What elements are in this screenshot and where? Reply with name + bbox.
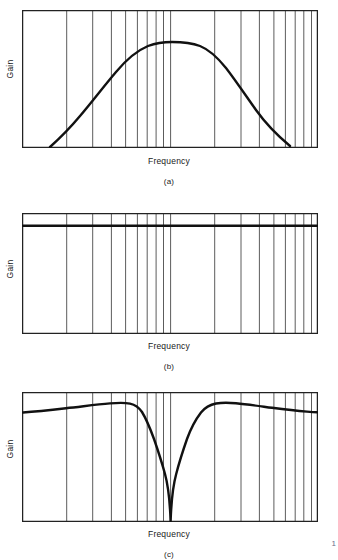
panel-a-y-axis-label: Gain xyxy=(5,59,15,79)
panel-a-gridlines xyxy=(67,10,312,148)
panel-c-x-axis-label: Frequency xyxy=(0,529,338,539)
panel-a-plot-area xyxy=(22,10,318,148)
panel-a-response-curve xyxy=(50,42,290,147)
panel-b-plot-area xyxy=(22,213,318,334)
panel-b-gridlines xyxy=(67,213,312,334)
panel-c-gridlines xyxy=(67,392,312,522)
page-corner-mark: 1 xyxy=(332,539,336,548)
panel-a-caption: (a) xyxy=(0,177,338,186)
panel-b-flat: Gain xyxy=(0,190,338,372)
panel-c-plot-svg xyxy=(22,392,318,522)
panel-b-plot-svg xyxy=(22,213,318,334)
panel-a-plot-svg xyxy=(22,10,318,148)
panel-c-y-axis-label: Gain xyxy=(5,439,15,459)
panel-b-y-axis-label: Gain xyxy=(5,259,15,279)
panel-b-caption: (b) xyxy=(0,362,338,371)
panel-c-plot-area xyxy=(22,392,318,522)
panel-c-notch: Gain xyxy=(0,372,338,560)
panel-a-bandpass: Gain xyxy=(0,0,338,190)
panel-c-caption: (c) xyxy=(0,550,338,559)
filter-response-figure: Gain xyxy=(0,0,338,560)
panel-a-x-axis-label: Frequency xyxy=(0,156,338,166)
panel-b-x-axis-label: Frequency xyxy=(0,341,338,351)
